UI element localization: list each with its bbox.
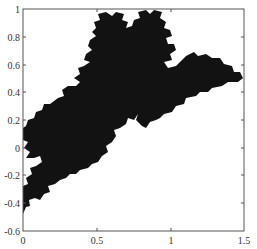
y-tick-label: 0.6 xyxy=(8,60,21,71)
y-tick-label: 0.4 xyxy=(8,87,21,98)
fractal-plot: 1 0.8 0.6 0.4 0.2 0 -0.2 -0.4 -0.6 0 0.5… xyxy=(0,0,257,249)
y-tick-label: 1 xyxy=(15,4,20,15)
y-tick-label: -0.2 xyxy=(4,170,20,181)
x-tick-label: 0.5 xyxy=(91,235,104,246)
fractal-shape xyxy=(23,10,243,214)
x-tick-label: 0 xyxy=(21,235,26,246)
y-tick-label: 0.8 xyxy=(8,32,21,43)
y-tick-label: 0 xyxy=(15,143,20,154)
y-tick-label: 0.2 xyxy=(8,115,21,126)
x-tick-labels: 0 0.5 1 1.5 xyxy=(21,235,251,246)
x-tick-label: 1.5 xyxy=(238,235,251,246)
x-tick-label: 1 xyxy=(169,235,174,246)
y-tick-label: -0.4 xyxy=(4,198,20,209)
y-tick-labels: 1 0.8 0.6 0.4 0.2 0 -0.2 -0.4 -0.6 xyxy=(4,4,20,237)
y-tick-label: -0.6 xyxy=(4,226,20,237)
